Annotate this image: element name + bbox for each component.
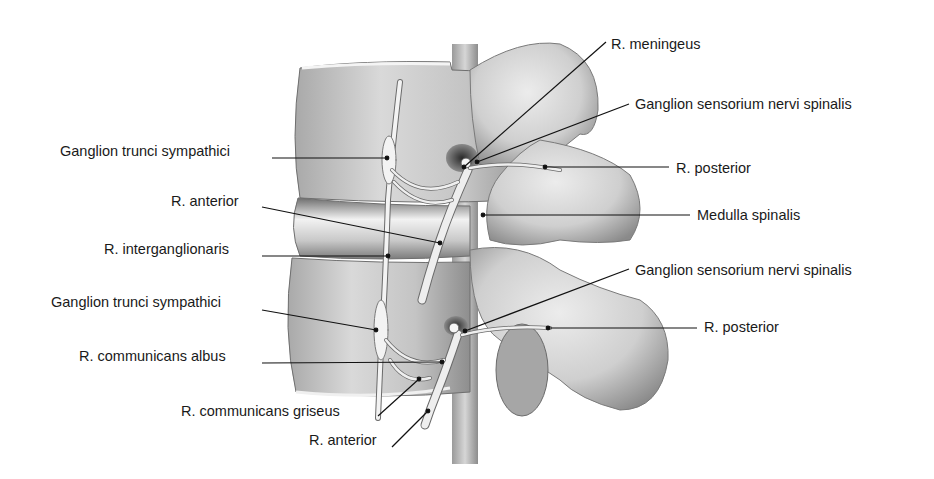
leader-tip-dot (385, 156, 389, 160)
label-r-communicans-albus: R. communicans albus (79, 348, 226, 364)
label-ganglion-sensorium-lower: Ganglion sensorium nervi spinalis (635, 262, 852, 278)
label-r-interganglionaris: R. interganglionaris (104, 241, 229, 257)
anatomy-figure (0, 0, 934, 479)
leader-tip-dot (481, 213, 485, 217)
label-r-anterior-lower: R. anterior (309, 432, 377, 448)
leader-tip-dot (462, 165, 466, 169)
leader-tip-dot (438, 241, 442, 245)
leader-tip-dot (543, 165, 547, 169)
leader-tip-dot (475, 160, 479, 164)
label-r-posterior-upper: R. posterior (676, 160, 751, 176)
leader-tip-dot (386, 254, 390, 258)
leader-tip-dot (426, 409, 430, 413)
label-r-posterior-lower: R. posterior (704, 319, 779, 335)
label-ganglion-trunci-sympathici-upper: Ganglion trunci sympathici (60, 143, 230, 159)
label-medulla-spinalis: Medulla spinalis (697, 207, 800, 223)
label-ganglion-sensorium-upper: Ganglion sensorium nervi spinalis (635, 96, 852, 112)
label-r-communicans-griseus: R. communicans griseus (181, 403, 340, 419)
leader-tip-dot (546, 326, 550, 330)
leader-tip-dot (417, 377, 421, 381)
leader-tip-dot (374, 328, 378, 332)
leader-tip-dot (463, 329, 467, 333)
leader-line-r-anterior-lower (392, 411, 428, 447)
label-r-meningeus: R. meningeus (611, 36, 700, 52)
label-ganglion-trunci-sympathici-lower: Ganglion trunci sympathici (51, 294, 221, 310)
leader-tip-dot (440, 360, 444, 364)
label-r-anterior-upper: R. anterior (171, 193, 239, 209)
